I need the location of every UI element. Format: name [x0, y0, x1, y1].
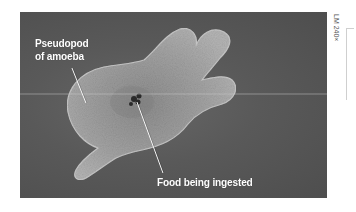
pseudopod-label-line2: of amoeba: [35, 50, 89, 63]
magnification-label: LM 240×: [330, 14, 340, 40]
margin-bracket-tick: [346, 28, 354, 29]
endoplasm-shading: [110, 86, 154, 118]
micrograph-photo: Pseudopod of amoeba Food being ingested: [20, 12, 327, 198]
pseudopod-label-line1: Pseudopod: [35, 37, 89, 50]
margin-bracket: [346, 28, 347, 100]
pseudopod-label: Pseudopod of amoeba: [35, 37, 89, 63]
food-label: Food being ingested: [157, 176, 253, 189]
